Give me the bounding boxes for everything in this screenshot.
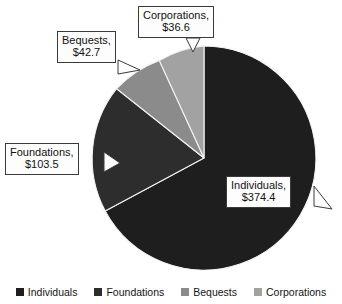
pie-plot-area: Corporations, $36.6 Bequests, $42.7 Foun… <box>0 0 342 278</box>
callout-bequests: Bequests, $42.7 <box>57 31 116 63</box>
legend-label-individuals: Individuals <box>28 287 78 298</box>
legend-label-bequests: Bequests <box>193 287 237 298</box>
callout-individuals-value: $374.4 <box>231 191 286 203</box>
callout-corporations: Corporations, $36.6 <box>138 6 214 38</box>
legend-swatch-corporations <box>254 288 262 296</box>
callout-foundations-value: $103.5 <box>10 158 74 170</box>
chart-legend: Individuals Foundations Bequests Corpora… <box>0 283 342 301</box>
callout-corporations-value: $36.6 <box>143 21 209 33</box>
pie-svg <box>0 0 342 278</box>
legend-item-individuals: Individuals <box>16 287 78 298</box>
legend-item-foundations: Foundations <box>94 287 164 298</box>
callout-tail-individuals <box>314 186 332 209</box>
callout-foundations: Foundations, $103.5 <box>5 143 79 175</box>
callout-bequests-value: $42.7 <box>62 46 111 58</box>
callout-individuals-name: Individuals, <box>231 179 286 191</box>
legend-label-corporations: Corporations <box>266 287 326 298</box>
callout-bequests-name: Bequests, <box>62 34 111 46</box>
legend-label-foundations: Foundations <box>106 287 164 298</box>
legend-swatch-foundations <box>94 288 102 296</box>
legend-item-corporations: Corporations <box>254 287 326 298</box>
legend-swatch-bequests <box>181 288 189 296</box>
pie-chart-figure: Corporations, $36.6 Bequests, $42.7 Foun… <box>0 0 342 304</box>
legend-item-bequests: Bequests <box>181 287 237 298</box>
callout-corporations-name: Corporations, <box>143 9 209 21</box>
legend-swatch-individuals <box>16 288 24 296</box>
callout-foundations-name: Foundations, <box>10 146 74 158</box>
callout-individuals: Individuals, $374.4 <box>226 176 291 208</box>
